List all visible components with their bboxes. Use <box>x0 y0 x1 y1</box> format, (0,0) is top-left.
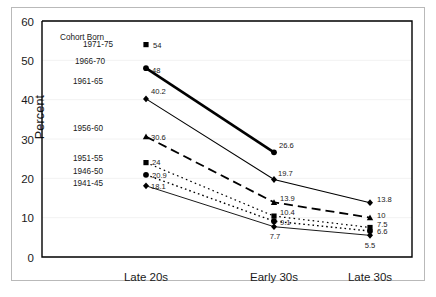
y-tick-label: 10 <box>21 212 34 224</box>
value-label: 7.7 <box>270 232 281 241</box>
data-point-1966-70 <box>271 149 277 155</box>
series-line-1961-65 <box>146 99 370 203</box>
data-point-1951-55 <box>143 160 148 165</box>
value-label: 30.6 <box>151 133 166 142</box>
data-point-1966-70 <box>143 65 149 71</box>
legend-label-1951-55: 1951-55 <box>73 154 103 163</box>
value-label: 10.4 <box>280 208 295 217</box>
data-point-1961-65 <box>367 199 373 206</box>
y-tick-label: 20 <box>21 173 34 185</box>
data-point-1941-45 <box>143 182 149 189</box>
line-chart: 0102030405060Late 20sEarly 30sLate 30s54… <box>0 0 436 297</box>
series-line-1946-50 <box>146 175 370 231</box>
data-point-1946-50 <box>271 218 277 224</box>
data-point-1951-55 <box>271 213 276 218</box>
data-point-1941-45 <box>271 223 277 230</box>
value-label: 5.5 <box>365 241 376 250</box>
value-label: 24 <box>152 158 160 167</box>
data-point-1956-60 <box>143 133 149 139</box>
data-point-1961-65 <box>271 176 277 183</box>
value-label: 19.7 <box>278 169 293 178</box>
chart-figure: Percent 0102030405060Late 20sEarly 30sLa… <box>0 0 436 297</box>
value-label: 48 <box>152 66 160 75</box>
x-tick-label: Late 20s <box>124 271 168 283</box>
legend-label-1946-50: 1946-50 <box>73 167 103 176</box>
value-label: 9.1 <box>280 218 291 227</box>
legend-label-1961-65: 1961-65 <box>73 77 103 86</box>
value-label: 18.1 <box>151 182 166 191</box>
x-tick-label: Early 30s <box>250 271 298 283</box>
value-label: 26.6 <box>279 141 294 150</box>
series-line-1956-60 <box>146 137 370 218</box>
y-tick-label: 60 <box>21 16 34 28</box>
legend-label-1971-75: 1971-75 <box>83 40 113 49</box>
x-tick-label: Late 30s <box>348 271 392 283</box>
y-tick-label: 40 <box>21 94 34 106</box>
legend-label-1941-45: 1941-45 <box>73 179 103 188</box>
value-label: 13.9 <box>280 194 295 203</box>
data-point-1971-75 <box>143 42 148 47</box>
value-label: 6.6 <box>377 227 388 236</box>
data-point-1946-50 <box>143 172 149 178</box>
value-label: 10 <box>377 211 385 220</box>
y-tick-label: 30 <box>21 134 34 146</box>
legend-label-1966-70: 1966-70 <box>75 57 105 66</box>
value-label: 13.8 <box>377 195 392 204</box>
value-label: 20.9 <box>152 171 167 180</box>
data-point-1961-65 <box>143 95 149 102</box>
y-tick-label: 0 <box>28 252 34 264</box>
y-tick-label: 50 <box>21 55 34 67</box>
value-label: 40.2 <box>151 87 166 96</box>
value-label: 54 <box>153 41 161 50</box>
legend-label-1956-60: 1956-60 <box>73 124 103 133</box>
